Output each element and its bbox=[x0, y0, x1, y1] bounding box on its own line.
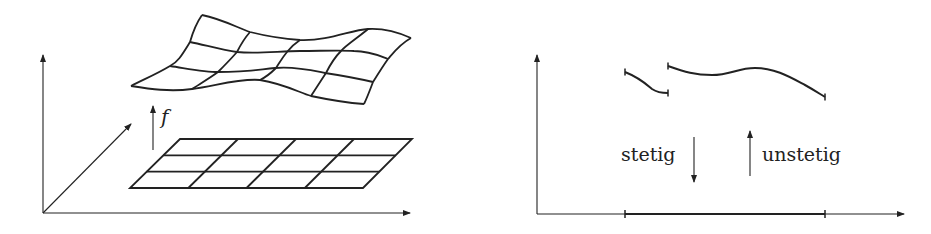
flat-domain-grid bbox=[130, 139, 412, 188]
function-graph bbox=[625, 63, 825, 101]
diagram-canvas: f bbox=[0, 0, 931, 234]
label-stetig: stetig bbox=[621, 143, 676, 165]
left-z-axis bbox=[43, 124, 131, 213]
graph-piece-left bbox=[625, 72, 668, 93]
left-panel: f bbox=[43, 15, 412, 213]
label-unstetig: unstetig bbox=[762, 143, 841, 165]
right-axes bbox=[537, 55, 904, 214]
right-panel: stetig unstetig bbox=[537, 55, 904, 218]
domain-interval bbox=[625, 210, 825, 218]
mapping-label-f: f bbox=[159, 105, 172, 129]
warped-surface-grid bbox=[131, 15, 411, 104]
graph-piece-right bbox=[668, 66, 825, 97]
